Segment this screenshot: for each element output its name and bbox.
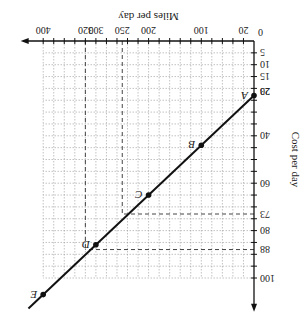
- x-tick-label: 320: [78, 25, 93, 36]
- y-tick-label: 40: [260, 130, 270, 141]
- chart-container: 2010020025030032040051015202340607380881…: [0, 0, 302, 318]
- x-tick-label: 400: [36, 25, 51, 36]
- cost-vs-miles-chart: 2010020025030032040051015202340607380881…: [0, 0, 302, 318]
- data-point: [40, 292, 46, 298]
- x-axis-label: Miles per day: [118, 11, 179, 23]
- y-tick-label: 10: [260, 59, 270, 70]
- origin-label: 0: [258, 27, 263, 38]
- x-tick-label: 200: [141, 25, 156, 36]
- x-tick-label: 100: [194, 25, 209, 36]
- x-tick-label: 250: [115, 25, 130, 36]
- y-tick-label: 100: [260, 273, 275, 284]
- y-tick-label: 23: [260, 86, 270, 97]
- point-label: C: [135, 189, 143, 201]
- y-tick-label: 60: [260, 178, 270, 189]
- y-tick-label: 5: [260, 47, 265, 58]
- data-point: [199, 142, 205, 148]
- x-tick-label: 20: [238, 25, 248, 36]
- y-tick-label: 88: [260, 244, 270, 255]
- axes: 2010020025030032040051015202340607380881…: [21, 25, 275, 312]
- data-point: [251, 93, 257, 99]
- data-point: [93, 242, 99, 248]
- data-point: [146, 192, 152, 198]
- grid: [43, 41, 254, 278]
- point-label: A: [241, 90, 249, 102]
- point-label: B: [188, 139, 195, 151]
- y-tick-label: 73: [260, 209, 270, 220]
- point-label: D: [82, 239, 91, 251]
- y-tick-label: 15: [260, 71, 270, 82]
- point-label: E: [30, 289, 38, 301]
- y-tick-label: 80: [260, 225, 270, 236]
- y-axis-label: Cost per day: [290, 132, 302, 188]
